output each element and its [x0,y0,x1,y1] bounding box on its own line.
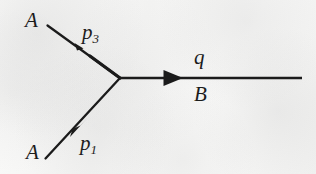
label-B: B [194,84,207,105]
right-horizontal-leg-arrowhead [164,70,184,86]
right-horizontal-leg [119,70,302,86]
label-A-upper: A [25,10,38,31]
upper-left-leg-line-thick [90,56,120,78]
label-p3-subscript: 3 [93,31,100,46]
label-p1-subscript: 1 [91,142,98,157]
label-p1: p1 [80,133,97,156]
label-p3-symbol: p [82,20,93,44]
label-A-lower: A [26,142,39,163]
label-p3: p3 [82,22,99,45]
label-p1-symbol: p [80,131,91,155]
diagram-canvas [0,0,316,174]
label-q: q [194,47,205,68]
feynman-diagram-figure: A A p3 p1 q B [0,0,316,174]
